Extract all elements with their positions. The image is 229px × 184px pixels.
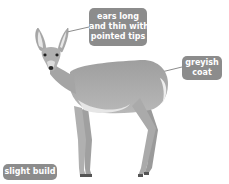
deer-figure <box>36 28 168 177</box>
diagram-canvas: ears long and thin with pointed tips gre… <box>0 0 229 184</box>
deer-eye-left <box>43 54 46 57</box>
deer-eye-right <box>55 54 58 57</box>
label-build-line-1: slight build <box>3 167 57 177</box>
ears-leader-line <box>67 27 89 32</box>
label-coat-line-1: greyish <box>182 58 222 68</box>
label-ears-line-3: pointed tips <box>89 32 147 42</box>
label-build: slight build <box>3 164 57 180</box>
label-coat-line-2: coat <box>182 68 222 78</box>
label-ears-line-2: and thin with <box>89 22 147 32</box>
label-ears-line-1: ears long <box>89 12 147 22</box>
deer-nose <box>49 66 54 70</box>
label-coat: greyish coat <box>182 56 222 80</box>
label-ears: ears long and thin with pointed tips <box>89 8 147 46</box>
